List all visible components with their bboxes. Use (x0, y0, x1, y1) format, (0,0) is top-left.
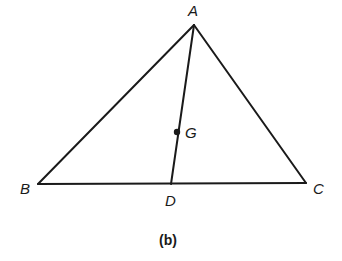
vertex-label-a: A (187, 2, 198, 19)
side-ac (194, 25, 306, 183)
median-ad (171, 25, 194, 184)
vertex-label-c: C (313, 180, 324, 197)
vertex-label-b: B (20, 180, 30, 197)
point-label-g: G (185, 124, 197, 141)
triangle-median-diagram: A B C D G (b) (0, 0, 342, 261)
side-ab (38, 25, 194, 184)
point-label-d: D (165, 192, 176, 209)
triangle (38, 25, 306, 184)
figure-caption: (b) (159, 232, 177, 248)
centroid-point-g (174, 129, 180, 135)
